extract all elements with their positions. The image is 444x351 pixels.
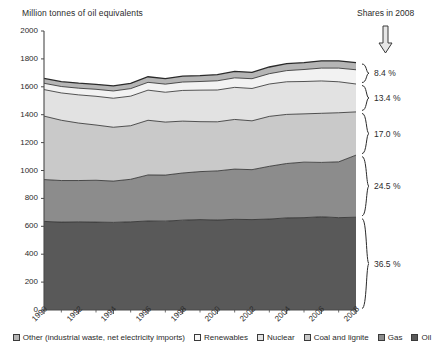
legend-label: Renewables — [204, 333, 248, 342]
share-brace — [362, 219, 369, 309]
y-tick-label-text: 800 — [0, 194, 38, 202]
chart-canvas: Million tonnes of oil equivalents Shares… — [0, 0, 444, 351]
shares-annotation-title: Shares in 2008 — [357, 8, 414, 18]
legend-label: Other (industrial waste, net electricity… — [23, 333, 185, 342]
y-tick-label-text: 1800 — [0, 55, 38, 63]
area-chart-plot — [0, 0, 444, 351]
down-arrow-icon — [379, 26, 392, 53]
y-tick-label-text: 2000 — [0, 27, 38, 35]
legend-swatch-icon — [257, 334, 264, 341]
legend-swatch-icon — [13, 334, 20, 341]
legend-item[interactable]: Coal and lignite — [304, 333, 369, 342]
y-tick-label-text: 200 — [0, 278, 38, 286]
share-percent-label: 24.5 % — [374, 181, 400, 191]
y-tick-label-text: 600 — [0, 222, 38, 230]
share-percent-label: 13.4 % — [374, 93, 400, 103]
legend-label: Nuclear — [267, 333, 295, 342]
share-brace — [362, 113, 369, 153]
legend-swatch-icon — [378, 334, 385, 341]
y-tick-label-text: 1000 — [0, 167, 38, 175]
share-brace — [362, 157, 369, 216]
legend-item[interactable]: Nuclear — [257, 333, 295, 342]
legend-item[interactable]: Gas — [378, 333, 403, 342]
legend-label: Gas — [388, 333, 403, 342]
area-band-oil — [44, 217, 356, 310]
y-tick-label-text: 1400 — [0, 111, 38, 119]
share-percent-label: 36.5 % — [374, 259, 400, 269]
legend-swatch-icon — [411, 334, 418, 341]
share-brace — [362, 86, 369, 111]
y-tick-label-text: 1200 — [0, 139, 38, 147]
share-percent-label: 17.0 % — [374, 129, 400, 139]
y-axis-title: Million tonnes of oil equivalents — [22, 8, 143, 18]
share-brace — [362, 64, 369, 82]
legend-item[interactable]: Renewables — [194, 333, 248, 342]
y-tick-label-text: 1600 — [0, 83, 38, 91]
legend-swatch-icon — [304, 334, 311, 341]
y-tick-label-text: 400 — [0, 250, 38, 258]
chart-legend: Other (industrial waste, net electricity… — [0, 333, 444, 342]
legend-label: Oil — [421, 333, 431, 342]
legend-item[interactable]: Other (industrial waste, net electricity… — [13, 333, 185, 342]
share-percent-label: 8.4 % — [374, 68, 396, 78]
legend-label: Coal and lignite — [314, 333, 369, 342]
legend-swatch-icon — [194, 334, 201, 341]
legend-item[interactable]: Oil — [411, 333, 431, 342]
